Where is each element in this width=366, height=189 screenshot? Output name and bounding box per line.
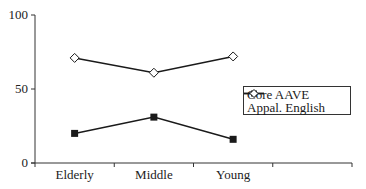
open-diamond-marker-icon [244, 87, 264, 100]
legend: Core AAVE Appal. English [243, 86, 351, 115]
filled-square-marker-icon [150, 114, 157, 121]
x-tick-label: Elderly [55, 167, 94, 182]
x-tick-label: Young [216, 167, 251, 182]
line-chart: 050100ElderlyMiddleYoung Core AAVE Appal… [0, 0, 366, 189]
open-diamond-marker-icon [149, 68, 158, 77]
y-tick-label: 0 [22, 155, 29, 170]
open-diamond-marker-icon [70, 53, 79, 62]
x-tick-label: Middle [135, 167, 173, 182]
legend-item-appal-english: Appal. English [247, 101, 347, 114]
y-tick-label: 50 [15, 81, 28, 96]
filled-square-marker-icon [230, 136, 237, 143]
open-diamond-marker-icon [229, 52, 238, 61]
y-tick-label: 100 [9, 7, 29, 22]
filled-square-marker-icon [71, 130, 78, 137]
legend-label: Appal. English [247, 101, 325, 114]
